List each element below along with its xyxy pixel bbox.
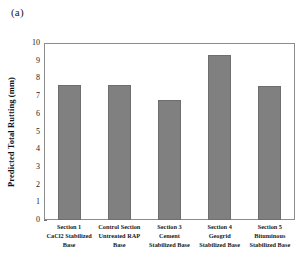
y-tick-label: 9 [28,57,40,65]
x-axis-tick-labels: Section 1CaCl2 StabilizedBaseControl Sec… [44,222,295,249]
y-axis-title: Predicted Total Rutting (mm) [4,43,18,220]
x-tick-label-line: Untreated RAP [94,231,144,240]
y-tick-label: 5 [28,128,40,136]
bar-slot [94,43,144,220]
x-tick-label-line: Control Section [94,222,144,231]
x-tick-label-line: Bituminous [245,231,295,240]
x-tick-label-line: Section 5 [245,222,295,231]
y-tick-label: 10 [28,39,40,47]
x-tick-label-line: Stabilized Base [195,240,245,249]
x-tick-label-line: Cement [144,231,194,240]
y-axis-tick-labels: 109876543210 [26,43,40,220]
bar-series [44,43,295,220]
x-tick-label-line: Section 4 [195,222,245,231]
bar-slot [144,43,194,220]
x-tick-label: Section 5BituminousStabilized Base [245,222,295,249]
bar-slot [245,43,295,220]
y-tick-label: 8 [28,74,40,82]
y-tick-label: 0 [28,216,40,224]
x-tick-label-line: Stabilized Base [144,240,194,249]
y-tick-mark [44,220,47,221]
x-tick-label: Control SectionUntreated RAPBase [94,222,144,249]
x-tick-label-line: Section 3 [144,222,194,231]
y-axis-title-text: Predicted Total Rutting (mm) [6,76,16,186]
bar [258,86,281,220]
y-tick-label: 4 [28,145,40,153]
figure-panel: (a) Predicted Total Rutting (mm) 1098765… [0,0,306,260]
x-tick-label-line: Geogrid [195,231,245,240]
x-tick-label-line: CaCl2 Stabilized [44,231,94,240]
bar [208,55,231,220]
y-tick-label: 3 [28,163,40,171]
y-tick-label: 7 [28,92,40,100]
x-tick-label: Section 3CementStabilized Base [144,222,194,249]
x-tick-label: Section 1CaCl2 StabilizedBase [44,222,94,249]
bar [108,85,131,220]
bar [58,85,81,220]
y-tick-label: 6 [28,110,40,118]
panel-label: (a) [11,6,24,18]
bar-slot [44,43,94,220]
x-tick-label: Section 4GeogridStabilized Base [195,222,245,249]
bar-slot [195,43,245,220]
y-tick-label: 2 [28,181,40,189]
x-tick-label-line: Base [44,240,94,249]
x-tick-label-line: Stabilized Base [245,240,295,249]
y-tick-label: 1 [28,198,40,206]
x-tick-label-line: Base [94,240,144,249]
x-tick-label-line: Section 1 [44,222,94,231]
bar [158,100,181,220]
